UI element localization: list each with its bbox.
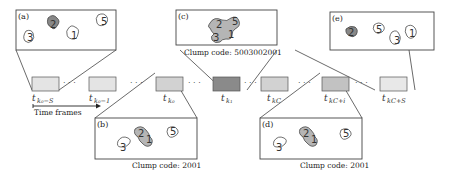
- svg-text:3: 3: [27, 32, 33, 43]
- svg-text:5: 5: [232, 16, 238, 27]
- svg-text:3: 3: [213, 32, 219, 43]
- svg-text:3: 3: [120, 142, 126, 153]
- svg-text:1: 1: [228, 29, 234, 40]
- svg-text:3: 3: [394, 35, 400, 46]
- svg-text:2: 2: [348, 27, 354, 38]
- time-frames-label: Time frames: [34, 108, 82, 117]
- svg-text:t: t: [324, 93, 328, 103]
- svg-text:t: t: [163, 93, 167, 103]
- svg-text:· · ·: · · ·: [130, 78, 143, 87]
- svg-text:5: 5: [343, 128, 349, 139]
- panel-c: (c) 2 5 3 1 Clump code: 5003002001: [176, 10, 282, 57]
- panel-label: (a): [18, 12, 29, 21]
- svg-text:k₁: k₁: [226, 97, 233, 105]
- frame-box: [32, 77, 59, 91]
- svg-text:· · ·: · · ·: [355, 78, 368, 87]
- svg-text:5: 5: [101, 16, 107, 27]
- svg-text:k₀: k₀: [168, 97, 175, 105]
- svg-text:· · ·: · · ·: [298, 78, 311, 87]
- clump-code-caption: Clump code: 2001: [300, 161, 369, 170]
- svg-text:2: 2: [303, 128, 309, 139]
- svg-text:kC: kC: [272, 97, 281, 105]
- frame-box: [261, 77, 288, 91]
- frame-box: [89, 77, 116, 91]
- svg-text:2: 2: [216, 19, 222, 30]
- svg-text:5: 5: [170, 126, 176, 137]
- svg-text:1: 1: [146, 134, 152, 145]
- svg-text:· · ·: · · ·: [188, 78, 201, 87]
- panel-e: (e) 2 5 3 1: [330, 12, 434, 50]
- clump-tracking-diagram: (a) 2 1 3 5 (c) 2 5 3 1 Clump code: 5003…: [0, 0, 449, 173]
- svg-text:· · ·: · · ·: [63, 78, 76, 87]
- clump-code-caption: Clump code: 2001: [132, 161, 201, 170]
- clump-code-caption: Clump code: 5003002001: [184, 48, 282, 57]
- svg-text:kC+S: kC+S: [387, 97, 406, 105]
- svg-text:(b): (b): [97, 120, 108, 129]
- svg-text:1: 1: [71, 30, 77, 41]
- svg-text:5: 5: [376, 24, 382, 35]
- panel-d: (d) 3 2 1 5 Clump code: 2001: [260, 118, 369, 170]
- svg-text:1: 1: [311, 134, 317, 145]
- svg-text:t: t: [267, 93, 271, 103]
- svg-text:1: 1: [409, 28, 415, 39]
- frame-box: [322, 77, 349, 91]
- svg-text:3: 3: [276, 142, 282, 153]
- svg-text:(e): (e): [332, 14, 343, 23]
- svg-text:t: t: [32, 93, 36, 103]
- frame-box: [380, 77, 407, 91]
- svg-text:t: t: [89, 93, 93, 103]
- frame-box: [213, 77, 240, 91]
- panel-b: (b) 3 2 1 5 Clump code: 2001: [95, 118, 201, 170]
- svg-text:t: t: [221, 93, 225, 103]
- svg-text:(d): (d): [262, 120, 273, 129]
- panel-a: (a) 2 1 3 5: [16, 10, 116, 50]
- frame-box: [156, 77, 183, 91]
- svg-text:· · ·: · · ·: [244, 78, 257, 87]
- timeline: · · · · · · · · · · · · · · · · · · tk₀−…: [32, 77, 407, 117]
- svg-text:2: 2: [138, 128, 144, 139]
- svg-text:t: t: [382, 93, 386, 103]
- svg-text:2: 2: [50, 19, 56, 30]
- svg-text:k₀−S: k₀−S: [37, 97, 54, 105]
- svg-text:kC+i: kC+i: [329, 97, 345, 105]
- svg-text:(c): (c): [178, 12, 189, 21]
